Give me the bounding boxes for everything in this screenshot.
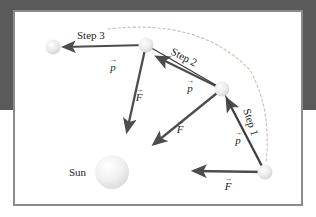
force-step1-arrow	[194, 171, 265, 172]
figure-root: Step 3 Step 2 Step 1 Sun → p → p → p → F…	[0, 0, 316, 217]
force-step2-label: → F	[176, 117, 184, 135]
momentum-step3-label: → p	[109, 55, 117, 73]
force-step2-arrow	[154, 89, 222, 144]
dashed-orbit-arc	[108, 27, 267, 162]
planet-step3-end	[46, 40, 61, 55]
sun-body	[95, 155, 129, 189]
orbit-diagram: Step 3 Step 2 Step 1 Sun → p → p → p → F…	[0, 0, 316, 217]
momentum-symbol: p	[109, 61, 116, 73]
planet-step2-start	[215, 82, 230, 97]
sun-label: Sun	[69, 166, 87, 178]
momentum-symbol: p	[186, 82, 193, 94]
momentum-step3-arrow	[64, 45, 146, 47]
force-step3-label: → F	[135, 85, 143, 103]
force-symbol: F	[224, 180, 232, 192]
step3-label: Step 3	[77, 29, 105, 41]
planet-step1-start	[258, 165, 273, 180]
force-step1-label: → F	[224, 174, 232, 192]
force-symbol: F	[176, 123, 184, 135]
force-symbol: F	[135, 91, 143, 103]
momentum-symbol: p	[234, 134, 241, 146]
momentum-step1-label: → p	[234, 128, 242, 146]
planet-step3-start	[139, 38, 154, 53]
momentum-step2-label: → p	[186, 76, 194, 94]
